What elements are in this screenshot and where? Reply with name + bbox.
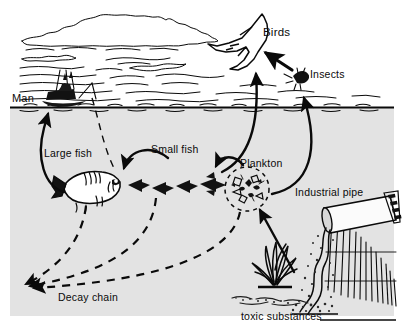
label-large-fish: Large fish — [44, 148, 92, 159]
ecology-diagram: Birds Insects Man Large fish Small fish … — [0, 0, 404, 331]
label-man: Man — [12, 93, 34, 104]
label-birds: Birds — [263, 27, 290, 39]
label-small-fish: Small fish — [151, 144, 199, 155]
label-industrial-pipe: Industrial pipe — [295, 187, 363, 198]
arrow-insects-to-birds — [266, 53, 292, 70]
label-plankton: Plankton — [240, 158, 282, 169]
label-toxic-substances: toxic substances — [241, 311, 322, 322]
insect-icon — [284, 68, 309, 90]
label-insects: Insects — [310, 69, 345, 80]
fishing-boat-icon — [42, 70, 96, 107]
flying-bird-icon — [208, 14, 268, 70]
diagram-canvas — [0, 0, 404, 331]
label-decay-chain: Decay chain — [58, 292, 118, 303]
